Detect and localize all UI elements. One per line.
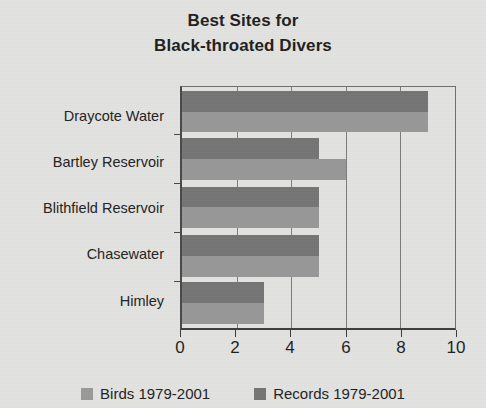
x-axis-tick-2 [235,330,236,337]
y-axis-label-0: Draycote Water [64,108,164,124]
x-axis-label-10: 10 [447,338,466,358]
y-axis-labels: Draycote Water Bartley Reservoir Blithfi… [0,86,172,330]
bar-birds-draycote-water [182,112,428,133]
chart-title-line-1: Best Sites for [188,11,299,30]
bar-records-bartley-reservoir [182,138,319,159]
x-axis-label-2: 2 [230,338,239,358]
y-axis-label-3: Chasewater [87,246,164,262]
x-axis-label-8: 8 [396,338,405,358]
bar-birds-chasewater [182,256,319,277]
bar-birds-blithfield-reservoir [182,207,319,228]
legend-item-birds: Birds 1979-2001 [81,385,210,402]
x-axis-ticks [180,330,456,338]
x-axis-label-0: 0 [175,338,184,358]
plot-area [180,86,456,330]
legend-item-records: Records 1979-2001 [254,385,405,402]
x-axis-label-6: 6 [341,338,350,358]
x-axis-tick-4 [290,330,291,337]
bar-group-blithfield-reservoir [182,187,455,228]
y-axis-label-2: Blithfield Reservoir [43,200,164,216]
bar-records-himley [182,282,264,303]
chart-title: Best Sites for Black-throated Divers [0,8,486,58]
x-axis-label-4: 4 [285,338,294,358]
bar-group-bartley-reservoir [182,138,455,179]
x-axis-tick-6 [346,330,347,337]
x-axis-tick-8 [401,330,402,337]
bar-records-draycote-water [182,91,428,112]
x-axis-labels: 0 2 4 6 8 10 [0,338,486,362]
bar-group-chasewater [182,235,455,276]
legend-label-birds: Birds 1979-2001 [100,385,210,402]
bar-group-draycote-water [182,91,455,132]
bar-birds-bartley-reservoir [182,159,346,180]
bar-group-himley [182,282,455,323]
legend-swatch-records-icon [254,388,266,400]
legend-label-records: Records 1979-2001 [273,385,405,402]
bar-groups [182,87,455,328]
legend-swatch-birds-icon [81,388,93,400]
y-axis-label-4: Himley [120,293,164,309]
chart-title-line-2: Black-throated Divers [0,33,486,58]
bar-birds-himley [182,303,264,324]
x-axis-tick-0 [180,330,181,337]
x-axis-tick-10 [456,330,457,337]
bar-records-chasewater [182,235,319,256]
bar-chart: Best Sites for Black-throated Divers Dra… [0,0,486,408]
y-axis-label-1: Bartley Reservoir [53,154,164,170]
chart-legend: Birds 1979-2001 Records 1979-2001 [0,385,486,402]
bar-records-blithfield-reservoir [182,187,319,208]
